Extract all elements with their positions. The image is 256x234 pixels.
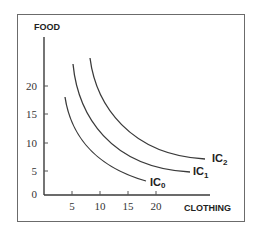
x-axis-title: CLOTHING: [184, 203, 231, 213]
label-ic2: IC2: [212, 152, 228, 167]
curve-ic1: [73, 64, 190, 172]
x-tick-label: 5: [69, 200, 75, 212]
x-ticks: 5 10 15 20: [69, 191, 162, 212]
y-axis-title: FOOD: [34, 22, 60, 32]
label-ic0: IC0: [150, 176, 166, 190]
indifference-curve-chart: FOOD CLOTHING 0 5 10 15 20 5 10 15 20 IC…: [0, 0, 256, 234]
label-ic1: IC1: [193, 165, 209, 180]
x-tick-label: 20: [151, 200, 163, 212]
y-tick-label: 10: [26, 137, 38, 149]
x-tick-label: 10: [95, 200, 107, 212]
x-tick-label: 15: [123, 200, 135, 212]
curve-ic2: [90, 58, 205, 159]
y-tick-label: 0: [32, 188, 38, 200]
y-tick-label: 5: [32, 165, 38, 177]
y-tick-label: 15: [26, 108, 38, 120]
y-tick-label: 20: [26, 80, 38, 92]
curve-ic0: [65, 97, 146, 181]
